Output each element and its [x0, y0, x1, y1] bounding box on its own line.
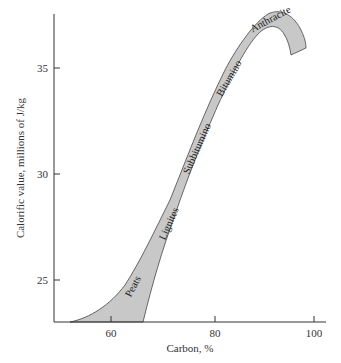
- chart-canvas: 35 30 25 60 80 100 Carbon, % Calorific v…: [0, 0, 341, 363]
- y-axis-title: Calorific value, millions of J/kg: [14, 97, 26, 238]
- x-tick-label: 80: [210, 327, 222, 339]
- y-tick-label: 35: [37, 62, 49, 74]
- x-axis-title: Carbon, %: [166, 342, 213, 354]
- y-tick-label: 25: [37, 274, 49, 286]
- x-tick-label: 60: [106, 327, 118, 339]
- y-tick-label: 30: [37, 168, 49, 180]
- band-label-subbituminous: Subbitumino: [181, 122, 213, 176]
- x-tick-label: 100: [306, 327, 323, 339]
